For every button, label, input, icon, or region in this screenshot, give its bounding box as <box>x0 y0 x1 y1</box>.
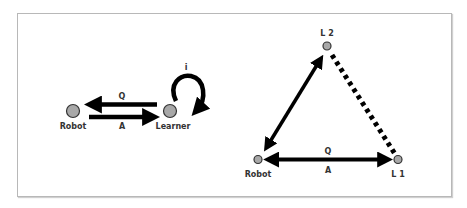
edge-robot-l2 <box>268 60 320 145</box>
node-l2 <box>323 42 331 50</box>
label-self-loop: i <box>185 63 188 72</box>
edge-self-loop-learner <box>173 76 203 110</box>
node-robot-right <box>254 156 262 164</box>
label-edge-q-right: Q <box>325 147 332 156</box>
label-edge-q-left: Q <box>119 92 126 101</box>
node-robot-left <box>67 105 80 118</box>
label-robot-right: Robot <box>245 170 272 179</box>
label-edge-a-left: A <box>119 122 126 131</box>
left-diagram: Robot Learner Q A i <box>60 63 204 131</box>
label-robot-left: Robot <box>60 122 87 131</box>
edge-dotted-l2-l1 <box>332 55 395 154</box>
diagram-canvas: Robot Learner Q A i L 2 Robot L 1 Q A <box>0 0 467 208</box>
right-diagram: L 2 Robot L 1 Q A <box>245 29 406 179</box>
label-learner: Learner <box>156 122 191 131</box>
label-edge-a-right: A <box>325 166 332 175</box>
label-l1: L 1 <box>391 170 405 179</box>
node-learner <box>164 105 177 118</box>
label-l2: L 2 <box>320 29 333 38</box>
node-l1 <box>394 156 402 164</box>
